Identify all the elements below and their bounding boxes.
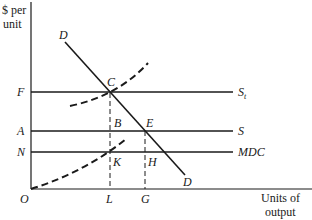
y-axis-title-line2: unit bbox=[3, 17, 22, 31]
y-axis-title-line1: $ per bbox=[2, 3, 26, 17]
label-F: F bbox=[16, 85, 25, 99]
label-D-bottom: D bbox=[182, 175, 192, 189]
economics-diagram: $ per unit Units of output F A N O L G C… bbox=[0, 0, 312, 220]
x-axis-title-line2: output bbox=[265, 205, 296, 219]
dashed-curve-lower bbox=[31, 139, 126, 189]
label-S: S bbox=[238, 124, 244, 138]
label-D-top: D bbox=[58, 28, 68, 42]
label-N: N bbox=[16, 145, 26, 159]
label-H: H bbox=[147, 155, 158, 169]
label-A: A bbox=[16, 124, 25, 138]
label-St-subscript: t bbox=[244, 92, 247, 101]
label-O: O bbox=[20, 192, 29, 206]
label-L: L bbox=[105, 192, 113, 206]
label-St: St bbox=[238, 85, 247, 101]
demand-curve bbox=[65, 42, 185, 175]
label-G: G bbox=[141, 192, 150, 206]
label-B: B bbox=[114, 116, 122, 130]
label-MDC: MDC bbox=[237, 145, 266, 159]
label-K: K bbox=[112, 155, 122, 169]
x-axis-title-line1: Units of bbox=[261, 191, 300, 205]
label-E: E bbox=[145, 116, 154, 130]
label-C: C bbox=[107, 75, 116, 89]
